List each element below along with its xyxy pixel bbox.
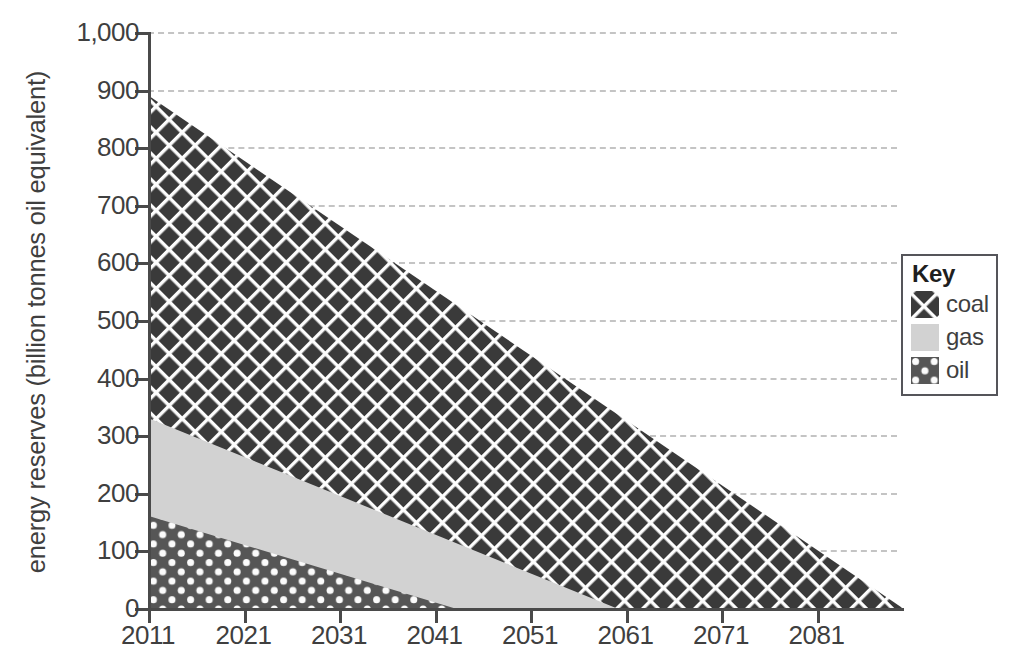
dotted-swatch bbox=[911, 357, 939, 384]
x-axis-line bbox=[148, 608, 904, 611]
crosshatch-swatch bbox=[911, 291, 939, 318]
y-axis-line bbox=[148, 32, 151, 611]
y-tick-label: 200 bbox=[39, 480, 139, 506]
legend-item-gas: gas bbox=[911, 322, 997, 353]
legend-item-coal: coal bbox=[911, 289, 997, 320]
light-gray-swatch bbox=[911, 324, 939, 351]
y-tick-label: 100 bbox=[39, 537, 139, 563]
y-tick-label: 1,000 bbox=[39, 19, 139, 45]
y-tick-label: 700 bbox=[39, 192, 139, 218]
y-tick-label: 400 bbox=[39, 365, 139, 391]
legend-label: coal bbox=[946, 290, 989, 318]
y-tick-label: 900 bbox=[39, 77, 139, 103]
stacked-area-chart: energy reserves (billion tonnes oil equi… bbox=[0, 0, 1021, 670]
legend-box: Key coalgasoil bbox=[901, 254, 998, 396]
y-tick-label: 800 bbox=[39, 134, 139, 160]
plot-area bbox=[0, 0, 1021, 670]
legend-title: Key bbox=[912, 261, 955, 287]
y-tick-label: 300 bbox=[39, 422, 139, 448]
legend-label: gas bbox=[946, 323, 984, 351]
y-tick-label: 500 bbox=[39, 307, 139, 333]
legend-label: oil bbox=[946, 356, 969, 384]
y-tick-label: 600 bbox=[39, 249, 139, 275]
x-tick-label: 2081 bbox=[757, 622, 877, 648]
legend-item-oil: oil bbox=[911, 355, 997, 386]
y-tick-label: 0 bbox=[39, 595, 139, 621]
